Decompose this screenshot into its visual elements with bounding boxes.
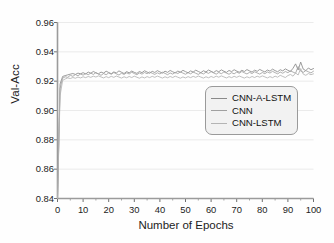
legend-item[interactable]: CNN-LSTM — [211, 118, 291, 129]
legend-line-swatch — [211, 123, 227, 124]
chart-figure: 0.840.860.880.900.920.940.96 01020304050… — [0, 0, 334, 243]
legend-item[interactable]: CNN — [211, 105, 291, 116]
legend-line-swatch — [211, 110, 227, 111]
legend-item[interactable]: CNN-A-LSTM — [211, 93, 291, 104]
legend-label: CNN — [232, 106, 253, 116]
legend-line-swatch — [211, 98, 227, 99]
legend[interactable]: CNN-A-LSTM CNN CNN-LSTM — [205, 86, 298, 135]
legend-label: CNN-A-LSTM — [232, 93, 291, 103]
legend-label: CNN-LSTM — [232, 118, 282, 128]
